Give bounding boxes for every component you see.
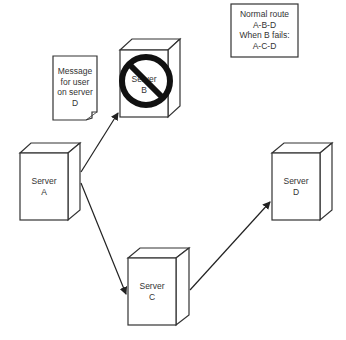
prohibited-icon (0, 0, 346, 340)
